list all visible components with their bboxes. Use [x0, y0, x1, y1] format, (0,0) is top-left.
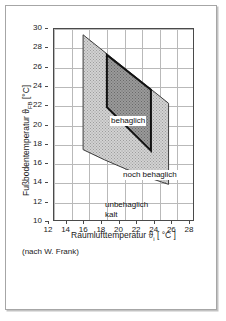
- x-axis-title-subscript: i: [153, 236, 154, 242]
- y-axis-tick-label: 24: [16, 82, 42, 90]
- y-axis-tick-mark: [45, 163, 48, 164]
- x-axis-tick-label: 28: [178, 226, 200, 234]
- y-axis-tick-mark: [45, 28, 48, 29]
- plot-area: behaglich noch behaglich unbehaglich kal…: [53, 28, 194, 221]
- zone-label-unbehaglich-line2: kalt: [105, 210, 148, 220]
- y-axis-tick-label: 14: [16, 178, 42, 186]
- source-note: (nach W. Frank): [22, 247, 79, 256]
- y-axis-tick-mark: [45, 182, 48, 183]
- y-axis-tick-label: 22: [16, 101, 42, 109]
- y-axis-tick-label: 28: [16, 43, 42, 51]
- x-axis-tick-mark: [171, 221, 172, 224]
- y-axis-tick-label: 18: [16, 140, 42, 148]
- y-axis-tick-label: 16: [16, 159, 42, 167]
- y-axis-tick-label: 12: [16, 198, 42, 206]
- y-axis-title-symbol: ϑ: [21, 109, 31, 114]
- zone-label-noch-behaglich: noch behaglich: [122, 170, 178, 180]
- y-axis-tick-mark: [45, 47, 48, 48]
- y-axis-tick-label: 30: [16, 24, 42, 32]
- y-axis-tick-mark: [45, 86, 48, 87]
- y-axis-tick-mark: [45, 202, 48, 203]
- x-axis-tick-mark: [119, 221, 120, 224]
- y-axis-tick-mark: [45, 105, 48, 106]
- y-axis-tick-label: 20: [16, 121, 42, 129]
- y-axis-tick-label: 10: [16, 217, 42, 225]
- x-axis-tick-mark: [189, 221, 190, 224]
- y-axis-tick-mark: [45, 125, 48, 126]
- x-axis-tick-mark: [83, 221, 84, 224]
- x-axis-tick-mark: [101, 221, 102, 224]
- y-axis-tick-label: 26: [16, 63, 42, 71]
- zone-label-behaglich: behaglich: [110, 116, 146, 126]
- x-axis-tick-mark: [136, 221, 137, 224]
- figure-frame: Fußbodentemperatur ϑFB [°C] Raumlufttemp…: [5, 5, 217, 310]
- x-axis-tick-mark: [48, 221, 49, 224]
- y-axis-tick-mark: [45, 67, 48, 68]
- zone-label-unbehaglich-line1: unbehaglich: [105, 200, 148, 210]
- y-axis-tick-mark: [45, 144, 48, 145]
- x-axis-tick-mark: [154, 221, 155, 224]
- x-axis-tick-mark: [66, 221, 67, 224]
- zone-label-unbehaglich-kalt: unbehaglich kalt: [105, 200, 148, 220]
